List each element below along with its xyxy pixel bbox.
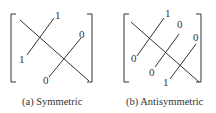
offdiag-line-2: [155, 34, 179, 67]
offdiag-line-1: [27, 18, 54, 55]
offdiag-line-2: [49, 38, 81, 77]
main-diagonal: [131, 22, 199, 82]
right-bracket: [87, 14, 92, 82]
panel-symmetric: [11, 14, 92, 82]
offdiag-line-3: [170, 44, 196, 79]
panel-antisymmetric: [124, 14, 201, 82]
left-bracket: [11, 14, 16, 82]
caption-antisymmetric: (b) Antisymmetric: [126, 96, 204, 108]
left-bracket: [124, 14, 129, 82]
label-b-bottom-1: 1: [163, 76, 169, 88]
label-a-top-0: 0: [79, 28, 85, 40]
label-b-mid-top-0: 0: [177, 18, 183, 30]
label-a-top-1: 1: [55, 9, 61, 21]
label-b-top-1: 1: [165, 7, 171, 19]
figure: 1 1 0 0 1 0 0 0 0 1 (a) Symmetric (b) An…: [0, 0, 216, 113]
label-a-bottom-1: 1: [19, 53, 25, 65]
caption-symmetric: (a) Symmetric: [22, 96, 83, 108]
label-b-right-top-0: 0: [193, 31, 199, 43]
offdiag-line-1: [137, 18, 164, 56]
right-bracket: [196, 14, 201, 82]
label-a-bottom-0: 0: [43, 74, 49, 86]
label-b-left-0: 0: [131, 52, 137, 64]
label-b-mid-bottom-0: 0: [149, 66, 155, 78]
